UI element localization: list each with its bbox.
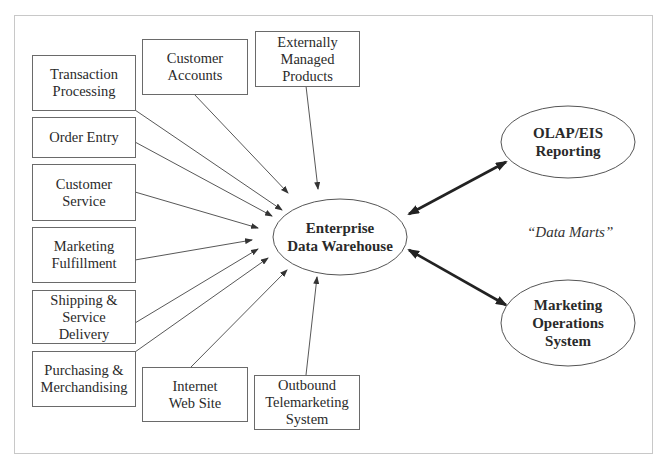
arrow-externally-managed-products bbox=[306, 86, 318, 189]
arrow-hub-marketing-ops bbox=[409, 250, 506, 305]
arrow-outbound-telemarketing bbox=[306, 277, 317, 375]
arrow-transaction-processing bbox=[135, 110, 282, 210]
arrow-order-entry bbox=[135, 142, 272, 216]
node-label: Transaction Processing bbox=[50, 66, 118, 100]
node-label: Order Entry bbox=[49, 129, 119, 146]
arrow-purchasing-merchandising bbox=[135, 258, 268, 352]
marketing-operations-system-label[interactable]: Marketing Operations System bbox=[501, 280, 635, 366]
node-label: Customer Accounts bbox=[167, 50, 223, 84]
node-label: Shipping & Service Delivery bbox=[50, 292, 117, 343]
node-customer-accounts[interactable]: Customer Accounts bbox=[142, 39, 248, 95]
arrow-hub-olap bbox=[409, 162, 506, 214]
node-internet-web-site[interactable]: Internet Web Site bbox=[142, 367, 248, 422]
node-label: Marketing Fulfillment bbox=[51, 238, 116, 272]
hub-label[interactable]: Enterprise Data Warehouse bbox=[273, 199, 407, 275]
node-customer-service[interactable]: Customer Service bbox=[32, 164, 136, 221]
node-externally-managed-products[interactable]: Externally Managed Products bbox=[255, 31, 360, 87]
data-marts-note: “Data Marts” bbox=[527, 224, 613, 241]
node-marketing-fulfillment[interactable]: Marketing Fulfillment bbox=[32, 227, 136, 283]
node-order-entry[interactable]: Order Entry bbox=[32, 117, 136, 158]
node-transaction-processing[interactable]: Transaction Processing bbox=[32, 55, 136, 111]
node-outbound-telemarketing-system[interactable]: Outbound Telemarketing System bbox=[254, 375, 360, 430]
node-label: Outbound Telemarketing System bbox=[265, 377, 349, 428]
arrow-marketing-fulfillment bbox=[135, 240, 252, 260]
node-label: Externally Managed Products bbox=[277, 34, 337, 85]
node-label: Purchasing & Merchandising bbox=[41, 362, 128, 396]
arrow-customer-accounts bbox=[194, 94, 288, 193]
olap-eis-reporting-label[interactable]: OLAP/EIS Reporting bbox=[501, 106, 635, 178]
node-purchasing-merchandising[interactable]: Purchasing & Merchandising bbox=[32, 351, 136, 407]
node-label: Internet Web Site bbox=[169, 378, 221, 412]
arrow-shipping-service-delivery bbox=[135, 249, 258, 323]
node-shipping-service-delivery[interactable]: Shipping & Service Delivery bbox=[32, 290, 136, 344]
arrow-internet-web-site bbox=[191, 270, 287, 367]
node-label: Customer Service bbox=[56, 176, 112, 210]
arrow-customer-service bbox=[135, 192, 258, 228]
